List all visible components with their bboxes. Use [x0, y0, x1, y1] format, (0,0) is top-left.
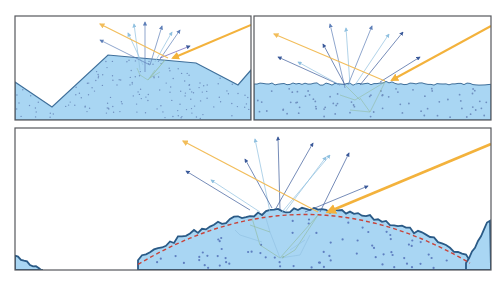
particle-dot: [342, 238, 344, 240]
particle-dot: [191, 112, 192, 113]
particle-dot: [180, 117, 181, 118]
particle-dot: [247, 97, 248, 98]
particle-dot: [50, 113, 51, 114]
particle-dot: [244, 95, 245, 96]
particle-dot: [132, 83, 133, 84]
particle-dot: [35, 116, 36, 117]
particle-dot: [102, 74, 103, 75]
particle-dot: [169, 68, 170, 69]
particle-dot: [318, 262, 320, 264]
particle-dot: [370, 116, 372, 118]
particle-dot: [38, 102, 39, 103]
particle-dot: [86, 111, 87, 112]
particle-dot: [152, 64, 153, 65]
particle-dot: [119, 79, 120, 80]
particle-dot: [190, 99, 191, 100]
particle-dot: [356, 253, 358, 255]
panel-curved-rough-surface: [15, 128, 491, 271]
particle-dot: [381, 263, 383, 265]
particle-dot: [315, 108, 317, 110]
particle-dot: [279, 261, 281, 263]
particle-dot: [188, 75, 189, 76]
particle-dot: [113, 112, 114, 113]
particle-dot: [105, 61, 106, 62]
particle-dot: [53, 113, 54, 114]
particle-dot: [204, 264, 206, 266]
particle-dot: [373, 111, 375, 113]
particle-dot: [202, 251, 204, 253]
particle-dot: [180, 91, 181, 92]
particle-dot: [175, 255, 177, 257]
particle-dot: [373, 247, 375, 249]
particle-dot: [438, 101, 440, 103]
particle-dot: [347, 222, 349, 224]
particle-dot: [179, 104, 180, 105]
particle-dot: [189, 89, 190, 90]
particle-dot: [159, 89, 160, 90]
particle-dot: [75, 87, 76, 88]
scattering-diagram: [0, 0, 504, 283]
particle-dot: [185, 92, 186, 93]
particle-dot: [472, 93, 474, 95]
particle-dot: [386, 231, 388, 233]
particle-dot: [461, 108, 463, 110]
particle-dot: [323, 116, 325, 118]
particle-dot: [446, 259, 448, 261]
particle-dot: [148, 94, 149, 95]
particle-dot: [193, 92, 194, 93]
particle-dot: [145, 112, 146, 113]
particle-dot: [217, 255, 219, 257]
particle-dot: [431, 257, 433, 259]
particle-dot: [89, 108, 90, 109]
particle-dot: [247, 251, 249, 253]
particle-dot: [412, 89, 414, 91]
particle-dot: [383, 253, 385, 255]
particle-dot: [191, 108, 192, 109]
particle-dot: [135, 60, 136, 61]
particle-dot: [389, 234, 391, 236]
particle-dot: [292, 232, 294, 234]
particle-dot: [259, 111, 261, 113]
particle-dot: [121, 103, 122, 104]
particle-dot: [207, 267, 209, 269]
particle-dot: [474, 90, 476, 92]
particle-dot: [106, 112, 107, 113]
particle-dot: [323, 251, 325, 253]
particle-dot: [36, 111, 37, 112]
particle-dot: [169, 92, 170, 93]
particle-dot: [206, 91, 207, 92]
particle-dot: [329, 96, 331, 98]
particle-dot: [87, 83, 88, 84]
particle-dot: [411, 245, 413, 247]
particle-dot: [169, 70, 170, 71]
particle-dot: [257, 100, 259, 102]
particle-dot: [298, 112, 300, 114]
particle-dot: [140, 71, 141, 72]
particle-dot: [202, 91, 203, 92]
particle-dot: [351, 101, 353, 103]
particle-dot: [337, 103, 339, 105]
particle-dot: [131, 70, 132, 71]
particle-dot: [162, 111, 163, 112]
particle-dot: [199, 82, 200, 83]
particle-dot: [266, 110, 268, 112]
particle-dot: [200, 118, 201, 119]
particle-dot: [485, 101, 487, 103]
particle-dot: [314, 101, 316, 103]
particle-dot: [140, 89, 141, 90]
particle-dot: [231, 103, 232, 104]
particle-dot: [196, 116, 197, 117]
particle-dot: [219, 240, 221, 242]
particle-dot: [323, 108, 325, 110]
particle-dot: [466, 116, 468, 118]
particle-dot: [156, 261, 158, 263]
particle-dot: [98, 77, 99, 78]
particle-dot: [274, 257, 276, 259]
particle-dot: [75, 94, 76, 95]
particle-dot: [472, 106, 474, 108]
particle-dot: [475, 109, 477, 111]
particle-dot: [296, 101, 298, 103]
particle-dot: [88, 82, 89, 83]
particle-dot: [392, 254, 394, 256]
particle-dot: [188, 85, 189, 86]
